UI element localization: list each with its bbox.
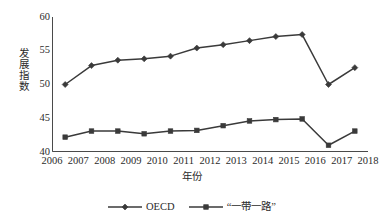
y-axis-tick-label: 50 [30, 79, 50, 90]
data-point-marker [141, 56, 147, 62]
data-series [62, 32, 358, 88]
chart-legend: OECD“一带一路” [0, 197, 384, 217]
data-point-marker [220, 42, 226, 48]
data-point-marker [195, 128, 200, 133]
legend-entry[interactable]: “一带一路” [189, 201, 276, 213]
y-axis-tick-labels: 4045505560 [28, 0, 50, 223]
data-point-marker [142, 131, 147, 136]
data-point-marker [221, 123, 226, 128]
data-point-marker [168, 129, 173, 134]
data-point-marker [299, 32, 305, 38]
data-series [63, 117, 357, 148]
y-axis-tick-label: 45 [30, 113, 50, 124]
data-point-marker [194, 45, 200, 51]
legend-entry[interactable]: OECD [108, 201, 175, 213]
data-point-marker [116, 129, 121, 134]
x-axis-tick-label: 2018 [353, 155, 383, 167]
legend-label: OECD [146, 201, 175, 213]
data-point-marker [168, 53, 174, 59]
data-point-marker [273, 34, 279, 40]
legend-label: “一带一路” [227, 201, 276, 213]
y-axis-tick-label: 60 [30, 12, 50, 23]
legend-square-marker-icon [189, 201, 223, 213]
plot-area [52, 17, 368, 152]
data-point-marker [353, 129, 358, 134]
x-axis-tick-labels: 2006200720082009201020112012201320142015… [52, 155, 368, 169]
legend-diamond-marker-icon [108, 201, 142, 213]
data-point-marker [326, 143, 331, 148]
y-axis-title: 发展指数 [14, 48, 28, 92]
data-point-marker [247, 119, 252, 124]
data-point-marker [274, 117, 279, 122]
line-chart: 发展指数 4045505560 200620072008200920102011… [0, 0, 384, 223]
data-point-marker [89, 129, 94, 134]
data-point-marker [247, 38, 253, 44]
data-point-marker [300, 117, 305, 122]
x-axis-title: 年份 [0, 170, 384, 183]
plot-svg [52, 17, 368, 152]
data-point-marker [115, 57, 121, 63]
y-axis-tick-label: 55 [30, 45, 50, 56]
data-point-marker [63, 135, 68, 140]
